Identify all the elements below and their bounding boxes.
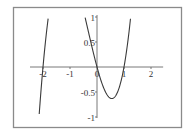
y-tick-label: 1 [91, 13, 96, 23]
function-plot: -2-101210.5-0.5-1 [0, 0, 186, 136]
y-tick-label: -1 [88, 113, 96, 123]
x-tick-label: -1 [66, 69, 74, 79]
x-tick-label: 2 [149, 69, 154, 79]
y-tick-label: -0.5 [81, 88, 96, 98]
